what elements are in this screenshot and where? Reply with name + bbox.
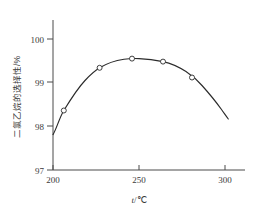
x-axis-title-unit: /℃ — [134, 195, 147, 205]
x-tick-label-300: 300 — [218, 175, 232, 185]
data-point-1 — [61, 108, 66, 113]
data-point-4 — [161, 59, 166, 64]
y-axis-title: 二氯乙烷的选择性/% — [12, 56, 22, 138]
selectivity-vs-temperature-chart: 100 99 98 97 200 250 300 t/℃ 二氯乙烷的选择性/% — [0, 0, 262, 219]
chart-container: 100 99 98 97 200 250 300 t/℃ 二氯乙烷的选择性/% — [0, 0, 262, 219]
data-point-2 — [97, 65, 102, 70]
chart-background — [0, 0, 262, 219]
x-tick-label-250: 250 — [132, 175, 146, 185]
x-axis-title: t/℃ — [131, 195, 146, 205]
y-tick-label-100: 100 — [31, 35, 45, 45]
y-tick-label-97: 97 — [35, 166, 45, 176]
data-point-5 — [190, 75, 195, 80]
y-tick-label-99: 99 — [35, 78, 45, 88]
data-point-3 — [130, 56, 135, 61]
x-tick-label-200: 200 — [46, 175, 60, 185]
y-tick-label-98: 98 — [35, 122, 45, 132]
